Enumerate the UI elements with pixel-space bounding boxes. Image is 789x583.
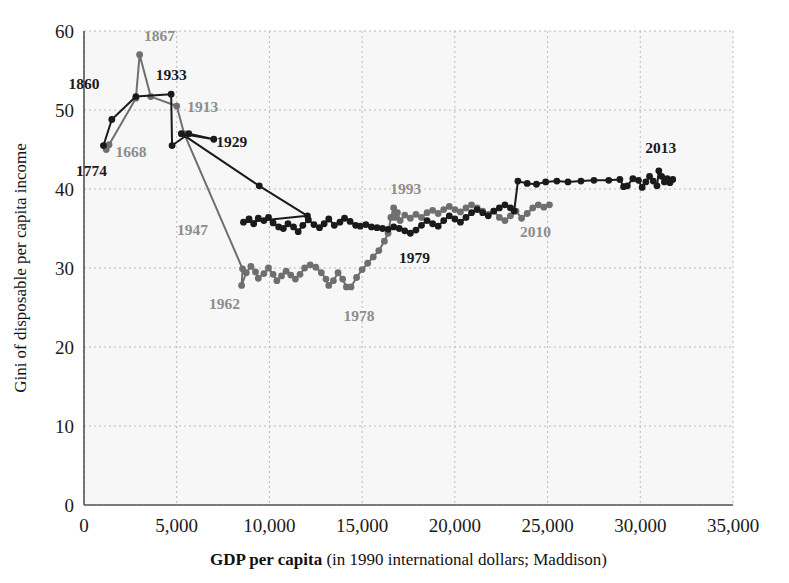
data-point xyxy=(364,260,371,267)
annotation-label-1978: 1978 xyxy=(344,307,375,324)
data-point xyxy=(553,178,560,185)
annotation-label-1668: 1668 xyxy=(116,143,147,160)
y-axis-title-text: Gini of disposable per capita income xyxy=(11,143,30,393)
data-point xyxy=(669,176,676,183)
annotation-label-1860: 1860 xyxy=(68,75,99,92)
x-tick-label: 5,000 xyxy=(155,515,198,536)
x-tick-label: 30,000 xyxy=(614,515,666,536)
data-point xyxy=(591,177,598,184)
annotation-label-1993: 1993 xyxy=(390,180,421,197)
data-point xyxy=(605,177,612,184)
data-point xyxy=(624,182,631,189)
data-point xyxy=(515,178,522,185)
annotation-label-2010: 2010 xyxy=(520,223,551,240)
data-point xyxy=(639,184,646,191)
data-point xyxy=(542,178,549,185)
data-point xyxy=(100,142,107,149)
gini-vs-gdp-scatter-chart: 05,00010,00015,00020,00025,00030,00035,0… xyxy=(0,0,789,583)
data-point xyxy=(375,247,382,254)
x-tick-label: 10,000 xyxy=(243,515,295,536)
y-tick-label: 50 xyxy=(55,100,74,121)
data-point xyxy=(297,271,304,278)
data-point xyxy=(353,274,360,281)
annotation-label-1933: 1933 xyxy=(156,66,187,83)
data-point xyxy=(169,142,176,149)
data-point xyxy=(435,210,442,217)
data-point xyxy=(457,209,464,216)
y-axis-title: Gini of disposable per capita income xyxy=(11,143,30,393)
data-point xyxy=(524,210,531,217)
y-tick-label: 0 xyxy=(65,495,75,516)
data-point xyxy=(339,276,346,283)
annotation-label-1962: 1962 xyxy=(209,295,240,312)
y-tick-label: 40 xyxy=(55,179,74,200)
data-point xyxy=(435,223,442,230)
data-point xyxy=(265,265,272,272)
data-point xyxy=(348,284,355,291)
data-point xyxy=(463,214,470,221)
y-tick-label: 20 xyxy=(55,337,74,358)
x-axis-title: GDP per capita (in 1990 international do… xyxy=(210,550,607,569)
data-point xyxy=(133,93,140,100)
data-point xyxy=(335,269,342,276)
x-tick-label: 35,000 xyxy=(707,515,759,536)
data-point xyxy=(407,215,414,222)
x-tick-label: 20,000 xyxy=(429,515,481,536)
data-point xyxy=(440,217,447,224)
data-point xyxy=(265,214,272,221)
chart-figure: 05,00010,00015,00020,00025,00030,00035,0… xyxy=(0,0,789,583)
data-point xyxy=(578,178,585,185)
annotation-label-1979: 1979 xyxy=(399,249,430,266)
data-point xyxy=(318,269,325,276)
annotation-label-1929: 1929 xyxy=(216,133,247,150)
data-point xyxy=(635,177,642,184)
data-point xyxy=(524,180,531,187)
data-point xyxy=(178,130,185,137)
data-point xyxy=(260,270,267,277)
data-point xyxy=(394,209,401,216)
data-point xyxy=(347,218,354,225)
data-point xyxy=(256,182,263,189)
y-tick-label: 10 xyxy=(55,416,74,437)
data-point xyxy=(457,219,464,226)
data-point xyxy=(616,176,623,183)
data-point xyxy=(250,220,257,227)
data-point xyxy=(485,212,492,219)
data-point xyxy=(270,220,277,227)
x-tick-label: 15,000 xyxy=(336,515,388,536)
data-point xyxy=(413,227,420,234)
data-point xyxy=(173,103,180,110)
data-point xyxy=(518,215,525,222)
data-point xyxy=(238,282,245,289)
data-point xyxy=(312,264,319,271)
annotation-label-1913: 1913 xyxy=(187,98,218,115)
data-point xyxy=(325,216,332,223)
data-point xyxy=(330,277,337,284)
x-tick-label: 25,000 xyxy=(521,515,573,536)
data-point xyxy=(565,178,572,185)
data-point xyxy=(305,216,312,223)
data-point xyxy=(502,217,509,224)
x-axis-title-text: GDP per capita (in 1990 international do… xyxy=(210,550,607,569)
annotation-label-1947: 1947 xyxy=(177,221,208,238)
annotation-label-1774: 1774 xyxy=(76,162,107,179)
data-point xyxy=(299,222,306,229)
data-point xyxy=(397,217,404,224)
data-point xyxy=(168,91,175,98)
data-point xyxy=(108,116,115,123)
data-point xyxy=(546,201,553,208)
data-point xyxy=(243,269,250,276)
x-tick-label: 0 xyxy=(79,515,89,536)
data-point xyxy=(323,276,330,283)
data-point xyxy=(185,130,192,137)
data-point xyxy=(255,275,262,282)
data-point xyxy=(252,269,259,276)
data-point xyxy=(370,254,377,261)
data-point xyxy=(247,263,254,270)
data-point xyxy=(533,181,540,188)
data-point xyxy=(642,178,649,185)
data-point xyxy=(270,271,277,278)
y-tick-label: 60 xyxy=(55,21,74,42)
y-tick-label: 30 xyxy=(55,258,74,279)
annotation-label-2013: 2013 xyxy=(645,139,676,156)
